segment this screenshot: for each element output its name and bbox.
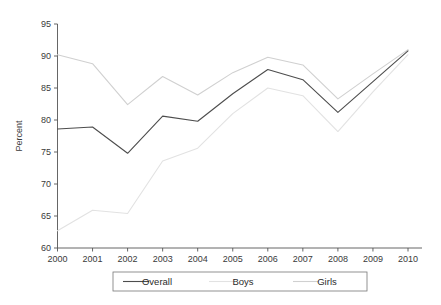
legend-label-girls[interactable]: Girls	[317, 276, 337, 287]
chart-legend[interactable]: OverallBoysGirls	[113, 272, 367, 291]
y-tick-label: 60	[41, 243, 51, 253]
x-tick-label: 2001	[83, 254, 103, 264]
y-tick-label: 75	[41, 147, 51, 157]
x-tick-label: 2004	[188, 254, 208, 264]
chart-canvas: 6065707580859095 20002001200220032004200…	[0, 0, 441, 305]
legend-label-overall[interactable]: Overall	[142, 276, 172, 287]
x-tick-label: 2005	[223, 254, 243, 264]
y-tick-label: 70	[41, 179, 51, 189]
x-tick-label: 2000	[47, 254, 67, 264]
line-chart: 6065707580859095 20002001200220032004200…	[0, 0, 441, 305]
x-axis: 2000200120022003200420052006200720082009…	[47, 248, 422, 264]
x-tick-label: 2010	[398, 254, 418, 264]
series-line-boys	[58, 55, 409, 231]
y-tick-label: 95	[41, 19, 51, 29]
y-tick-label: 90	[41, 51, 51, 61]
x-tick-label: 2009	[363, 254, 383, 264]
y-axis-title-label: Percent	[14, 120, 24, 152]
legend-label-boys[interactable]: Boys	[232, 276, 253, 287]
x-tick-label: 2006	[258, 254, 278, 264]
x-tick-label: 2007	[293, 254, 313, 264]
series-lines	[58, 50, 409, 231]
y-tick-label: 85	[41, 83, 51, 93]
x-tick-label: 2003	[153, 254, 173, 264]
y-tick-label: 65	[41, 211, 51, 221]
x-tick-label: 2008	[328, 254, 348, 264]
y-axis-title: Percent	[14, 120, 24, 152]
y-axis: 6065707580859095	[41, 19, 58, 253]
series-line-overall	[58, 51, 409, 153]
x-tick-label: 2002	[118, 254, 138, 264]
y-tick-label: 80	[41, 115, 51, 125]
